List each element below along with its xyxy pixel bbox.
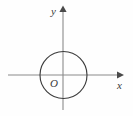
y-axis-arrowhead [59, 6, 66, 13]
origin-label: O [50, 77, 58, 89]
x-axis-arrowhead [117, 71, 124, 78]
math-figure-canvas: y x O [0, 0, 133, 116]
coordinate-plane-svg: y x O [0, 0, 133, 116]
x-axis-label: x [116, 79, 122, 91]
y-axis-label: y [50, 5, 56, 17]
